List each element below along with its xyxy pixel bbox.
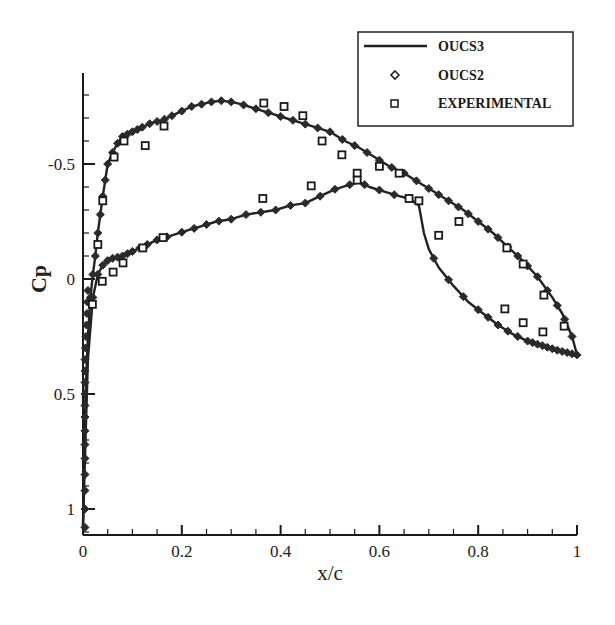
oucs2-diamond-marker xyxy=(207,98,215,106)
oucs2-diamond-marker xyxy=(178,228,186,236)
experimental-square-marker xyxy=(354,177,361,184)
oucs2-diamond-marker xyxy=(286,201,294,209)
oucs3-lower-curve xyxy=(83,182,577,527)
experimental-square-marker xyxy=(503,244,510,251)
y-tick-label: 1 xyxy=(67,500,76,519)
oucs2-diamond-marker xyxy=(301,120,309,128)
experimental-square-marker xyxy=(99,278,106,285)
experimental-square-marker xyxy=(121,138,128,145)
oucs2-diamond-marker xyxy=(316,192,324,200)
oucs3-upper-curve xyxy=(83,101,577,528)
oucs2-diamond-marker xyxy=(252,105,260,113)
oucs2-diamond-marker xyxy=(215,217,223,225)
legend-square-icon xyxy=(391,100,398,107)
oucs2-diamond-marker xyxy=(390,191,398,199)
experimental-square-marker xyxy=(520,261,527,268)
experimental-square-marker xyxy=(89,301,96,308)
legend-label-oucs2: OUCS2 xyxy=(438,68,484,83)
experimental-square-marker xyxy=(455,218,462,225)
experimental-square-marker xyxy=(501,305,508,312)
experimental-square-marker xyxy=(308,182,315,189)
oucs2-diamond-marker xyxy=(388,163,396,171)
oucs2-diamond-marker xyxy=(301,199,309,207)
x-tick-label: 0.6 xyxy=(369,542,390,561)
oucs2-diamond-marker xyxy=(272,206,280,214)
oucs2-diamond-marker xyxy=(257,208,265,216)
x-tick-label: 0.4 xyxy=(270,542,292,561)
oucs2-diamond-marker xyxy=(277,112,285,120)
y-tick-label: 0 xyxy=(67,270,76,289)
experimental-square-marker xyxy=(319,138,326,145)
axes: 00.20.40.60.81-0.500.51 xyxy=(48,73,581,561)
legend-label-experimental: EXPERIMENTAL xyxy=(438,96,551,111)
experimental-square-marker xyxy=(435,232,442,239)
experimental-square-marker xyxy=(520,319,527,326)
oucs2-diamond-marker xyxy=(188,103,196,111)
oucs2-diamond-marker xyxy=(351,142,359,150)
experimental-square-marker xyxy=(259,195,266,202)
curves xyxy=(83,101,577,528)
experimental-square-marker xyxy=(142,142,149,149)
x-tick-label: 1 xyxy=(573,542,582,561)
experimental-markers xyxy=(89,100,568,336)
y-tick-label: 0.5 xyxy=(54,385,75,404)
y-tick-label: -0.5 xyxy=(48,155,75,174)
legend-label-oucs3: OUCS3 xyxy=(438,39,484,54)
experimental-square-marker xyxy=(160,234,167,241)
experimental-square-marker xyxy=(376,163,383,170)
oucs2-diamond-marker xyxy=(240,101,248,109)
experimental-square-marker xyxy=(281,103,288,110)
oucs2-diamond-marker xyxy=(146,120,154,128)
experimental-square-marker xyxy=(111,154,118,161)
experimental-square-marker xyxy=(260,100,267,107)
oucs2-diamond-marker xyxy=(101,176,109,184)
x-tick-label: 0.8 xyxy=(468,542,489,561)
x-axis-title: x/c xyxy=(317,561,343,585)
experimental-square-marker xyxy=(161,123,168,130)
oucs2-diamond-marker xyxy=(198,100,206,108)
oucs2-diamond-marker xyxy=(217,97,225,105)
experimental-square-marker xyxy=(110,269,117,276)
oucs2-diamond-marker xyxy=(514,333,522,341)
oucs2-diamond-marker xyxy=(168,112,176,120)
experimental-square-marker xyxy=(406,195,413,202)
legend: OUCS3 OUCS2 EXPERIMENTAL xyxy=(358,32,573,126)
experimental-square-marker xyxy=(561,323,568,330)
experimental-square-marker xyxy=(99,197,106,204)
experimental-square-marker xyxy=(539,328,546,335)
oucs2-diamond-marker xyxy=(346,181,354,189)
x-tick-label: 0 xyxy=(79,542,88,561)
oucs2-diamond-marker xyxy=(96,211,104,219)
x-tick-label: 0.2 xyxy=(171,542,192,561)
oucs2-diamond-marker xyxy=(568,333,576,341)
oucs2-diamond-marker xyxy=(94,229,102,237)
oucs2-diamond-marker xyxy=(314,124,322,132)
experimental-square-marker xyxy=(540,292,547,299)
oucs2-diamond-marker xyxy=(375,186,383,194)
oucs2-diamond-marker xyxy=(227,215,235,223)
oucs2-diamond-marker xyxy=(91,252,99,260)
experimental-square-marker xyxy=(139,244,146,251)
oucs2-diamond-marker xyxy=(242,211,250,219)
oucs2-diamond-marker xyxy=(203,221,211,229)
oucs2-diamond-marker xyxy=(264,109,272,117)
experimental-square-marker xyxy=(338,151,345,158)
oucs2-diamond-marker xyxy=(289,116,297,124)
experimental-square-marker xyxy=(354,170,361,177)
cp-chart: 00.20.40.60.81-0.500.51 x/c Cp OUCS3 OUC… xyxy=(0,0,615,625)
experimental-square-marker xyxy=(120,259,127,266)
oucs2-markers xyxy=(81,97,581,532)
oucs2-diamond-marker xyxy=(227,98,235,106)
oucs2-diamond-marker xyxy=(190,224,198,232)
experimental-square-marker xyxy=(396,170,403,177)
experimental-square-marker xyxy=(415,197,422,204)
oucs2-diamond-marker xyxy=(331,185,339,193)
experimental-square-marker xyxy=(94,241,101,248)
experimental-square-marker xyxy=(299,112,306,119)
y-axis-title: Cp xyxy=(26,265,51,293)
oucs2-diamond-marker xyxy=(178,107,186,115)
oucs2-diamond-marker xyxy=(361,181,369,189)
